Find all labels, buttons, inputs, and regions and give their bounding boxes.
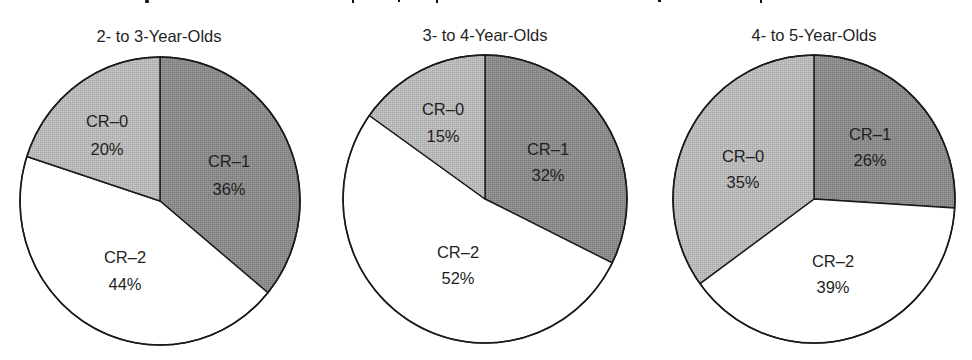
svg-text:CR–2: CR–2 (104, 248, 146, 266)
pie-2-to-3-year-olds: 2- to 3-Year-Olds CR–1 36% CR–2 44% CR–0… (20, 27, 300, 345)
pie-4-to-5-year-olds: 4- to 5-Year-Olds CR–1 26% CR–2 39% CR–0… (673, 26, 955, 343)
svg-text:44%: 44% (108, 275, 141, 293)
pie-chart-figure: 2- to 3-Year-Olds CR–1 36% CR–2 44% CR–0… (0, 0, 972, 360)
svg-text:36%: 36% (212, 180, 245, 198)
svg-text:CR–0: CR–0 (722, 147, 764, 165)
svg-text:CR–0: CR–0 (422, 100, 464, 118)
clipped-figure-title (145, 0, 762, 3)
pie-3-to-4-year-olds: 3- to 4-Year-Olds CR–1 32% CR–2 52% CR–0… (343, 26, 627, 343)
svg-text:35%: 35% (726, 173, 759, 191)
svg-text:15%: 15% (426, 127, 459, 145)
svg-text:CR–1: CR–1 (849, 125, 891, 143)
svg-text:52%: 52% (441, 269, 474, 287)
svg-text:CR–2: CR–2 (437, 243, 479, 261)
pie-subtitle: 4- to 5-Year-Olds (751, 26, 876, 44)
svg-text:32%: 32% (531, 166, 564, 184)
svg-text:CR–0: CR–0 (86, 112, 128, 130)
svg-text:CR–2: CR–2 (812, 252, 854, 270)
pie-subtitle: 3- to 4-Year-Olds (422, 26, 547, 44)
svg-text:CR–1: CR–1 (527, 140, 569, 158)
svg-text:20%: 20% (90, 140, 123, 158)
svg-text:39%: 39% (816, 278, 849, 296)
svg-text:CR–1: CR–1 (208, 152, 250, 170)
svg-text:26%: 26% (853, 151, 886, 169)
pie-subtitle: 2- to 3-Year-Olds (96, 27, 221, 45)
